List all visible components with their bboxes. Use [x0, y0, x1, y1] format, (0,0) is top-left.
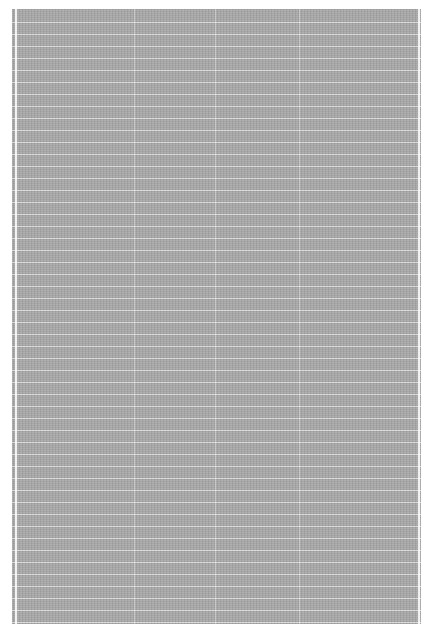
grid-row-line	[12, 154, 421, 155]
grid-row-line	[12, 430, 421, 431]
grid-row-line	[12, 370, 421, 371]
grid-row-line	[12, 406, 421, 407]
grid-row-line	[12, 178, 421, 179]
grid-row-line	[12, 166, 421, 167]
grid-row-line	[12, 478, 421, 479]
grid-column-line	[215, 9, 216, 624]
grid-row-line	[12, 394, 421, 395]
grid-row-line	[12, 274, 421, 275]
grid-row-line	[12, 202, 421, 203]
grid-row-line	[12, 94, 421, 95]
grid-row-line	[12, 310, 421, 311]
grid-row-line	[12, 610, 421, 611]
grid-column-line	[299, 9, 300, 624]
grid-row-line	[12, 142, 421, 143]
grid-column-line	[418, 9, 420, 624]
grid-row-line	[12, 322, 421, 323]
grid-row-line	[12, 34, 421, 35]
grid-row-line	[12, 418, 421, 419]
grid-row-line	[12, 346, 421, 347]
grid-row-line	[12, 214, 421, 215]
grid-row-line	[12, 502, 421, 503]
grid-row-line	[12, 442, 421, 443]
grid-row-line	[12, 58, 421, 59]
grid-row-line	[12, 262, 421, 263]
grid-row-line	[12, 298, 421, 299]
grid-row-line	[12, 514, 421, 515]
grid-row-line	[12, 622, 421, 623]
grid-row-line	[12, 46, 421, 47]
grid-row-line	[12, 334, 421, 335]
grid-row-line	[12, 238, 421, 239]
grid-column-line	[15, 9, 17, 624]
grid-row-line	[12, 586, 421, 587]
grid-row-line	[12, 130, 421, 131]
grid-column-line	[134, 9, 135, 624]
grid-row-line	[12, 286, 421, 287]
grid-row-line	[12, 598, 421, 599]
grid-row-line	[12, 70, 421, 71]
grid-row-line	[12, 106, 421, 107]
grid-row-line	[12, 538, 421, 539]
grid-row-line	[12, 454, 421, 455]
grid-row-line	[12, 82, 421, 83]
grid-row-line	[12, 250, 421, 251]
grid-row-line	[12, 190, 421, 191]
grid-row-line	[12, 118, 421, 119]
grid-row-line	[12, 382, 421, 383]
grid-row-line	[12, 562, 421, 563]
grid-row-line	[12, 466, 421, 467]
grid-row-line	[12, 574, 421, 575]
grid-row-line	[12, 526, 421, 527]
grid-row-line	[12, 490, 421, 491]
grid-row-line	[12, 226, 421, 227]
grid-row-line	[12, 22, 421, 23]
grid-row-line	[12, 550, 421, 551]
grid-row-line	[12, 358, 421, 359]
textured-grid-panel	[12, 9, 421, 624]
